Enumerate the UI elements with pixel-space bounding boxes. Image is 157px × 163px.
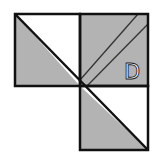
region-label: D [124,60,140,84]
shape-figure: D [0,0,157,163]
